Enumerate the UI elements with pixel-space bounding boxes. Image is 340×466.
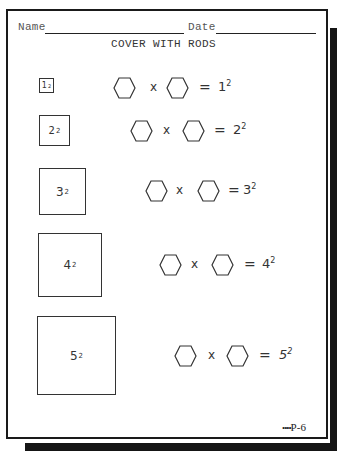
times-sign: x [163,124,170,136]
equals-sign: = [259,348,271,362]
square-base: 2 [49,125,55,136]
date-field-line[interactable] [216,33,316,34]
square-1: 12 [39,78,54,93]
equation-result: 32 [243,183,256,196]
hexagon-answer-blank-icon[interactable] [166,77,189,99]
hexagon-answer-blank-icon[interactable] [182,120,205,142]
date-label: Date [188,21,216,33]
result-exponent: 2 [226,79,231,88]
square-exponent: 2 [48,83,51,89]
hexagon-answer-blank-icon[interactable] [226,345,249,367]
footer-dots: •••• [282,423,291,433]
equation-result: 42 [262,257,275,270]
square-base: 1 [42,81,47,90]
hexagon-answer-blank-icon[interactable] [113,77,136,99]
result-exponent: 2 [287,347,292,356]
name-field-line[interactable] [45,33,184,34]
equals-sign: = [214,123,226,137]
page-shadow-right [330,28,337,451]
footer-page-code: P-6 [291,421,306,433]
hexagon-answer-blank-icon[interactable] [130,120,153,142]
worksheet-title: COVER WITH RODS [111,38,216,50]
equation-result: 22 [233,123,246,136]
name-label: Name [18,21,46,33]
result-exponent: 2 [241,122,246,131]
times-sign: x [208,349,215,361]
square-exponent: 2 [72,261,76,269]
equals-sign: = [228,183,240,197]
hexagon-answer-blank-icon[interactable] [174,345,197,367]
page-code: ••••P-6 [282,421,306,433]
times-sign: x [176,184,183,196]
square-exponent: 2 [65,188,69,196]
equals-sign: = [199,80,211,94]
square-base: 3 [56,185,64,199]
square-3: 32 [39,168,86,215]
square-exponent: 2 [56,127,60,135]
result-exponent: 2 [270,256,275,265]
times-sign: x [150,81,157,93]
square-base: 5 [70,349,78,363]
result-exponent: 2 [251,182,256,191]
hexagon-answer-blank-icon[interactable] [159,254,182,276]
square-4: 42 [38,233,102,297]
equation-result: 12 [218,80,231,93]
square-2: 22 [39,115,70,146]
square-base: 4 [63,258,71,272]
page-shadow-bottom [25,443,337,451]
equals-sign: = [244,257,256,271]
hexagon-answer-blank-icon[interactable] [211,254,234,276]
square-exponent: 2 [79,352,83,360]
equation-result: 52 [279,348,292,361]
times-sign: x [191,258,198,270]
hexagon-answer-blank-icon[interactable] [197,180,220,202]
hexagon-answer-blank-icon[interactable] [145,180,168,202]
square-5: 52 [37,316,116,395]
